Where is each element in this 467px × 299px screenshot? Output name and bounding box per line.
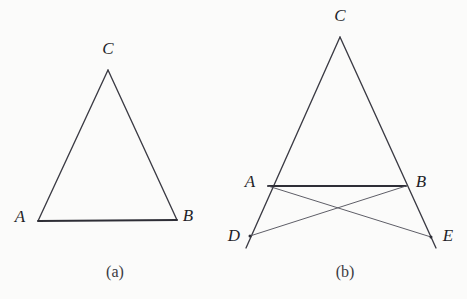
geometry-figure-canvas: A B C (a) A B C D bbox=[0, 0, 467, 299]
panel-a-label-c: C bbox=[102, 39, 114, 58]
panel-a-label-a: A bbox=[14, 207, 26, 226]
panel-a-label-b: B bbox=[183, 206, 194, 225]
panel-b-vertex-dot-e bbox=[430, 236, 433, 239]
panel-a: A B C (a) bbox=[14, 39, 194, 281]
panel-a-base-ab bbox=[38, 220, 177, 221]
panel-b-side-c-through-b-to-e bbox=[340, 37, 436, 248]
figure-root: A B C (a) A B C D bbox=[0, 0, 467, 299]
panel-b: A B C D E (b) bbox=[227, 6, 454, 281]
panel-a-side-ca bbox=[38, 70, 108, 221]
panel-b-label-d: D bbox=[227, 226, 241, 245]
panel-b-segment-bd bbox=[250, 186, 406, 236]
panel-a-side-cb bbox=[108, 70, 177, 220]
panel-b-caption: (b) bbox=[336, 263, 355, 281]
panel-b-segment-ae bbox=[268, 186, 431, 237]
panel-b-side-c-through-a-to-d bbox=[246, 37, 340, 248]
panel-b-vertex-dot-d bbox=[249, 235, 252, 238]
panel-b-label-c: C bbox=[334, 6, 346, 25]
panel-b-label-b: B bbox=[416, 172, 427, 191]
panel-b-label-e: E bbox=[442, 226, 454, 245]
panel-a-caption: (a) bbox=[106, 263, 124, 281]
panel-b-label-a: A bbox=[244, 172, 256, 191]
